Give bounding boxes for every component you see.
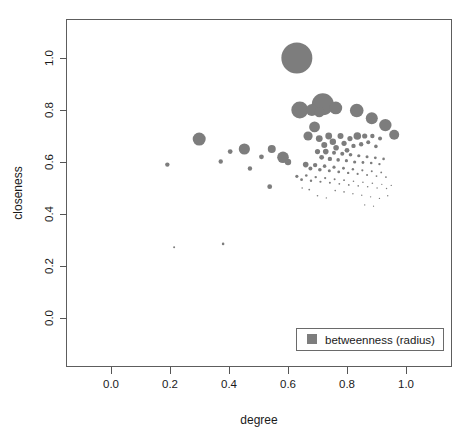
y-tick-label-1.0: 1.0 (43, 50, 55, 66)
data-point (337, 170, 340, 173)
data-point (338, 133, 344, 139)
data-point (349, 153, 353, 157)
data-point (343, 179, 345, 181)
data-point (361, 195, 362, 196)
data-point (343, 191, 345, 193)
data-point (341, 141, 346, 146)
data-point (328, 169, 331, 172)
data-point (362, 133, 367, 138)
data-point (367, 186, 369, 188)
data-point (366, 112, 378, 124)
data-point (352, 168, 354, 170)
data-point (353, 160, 356, 163)
y-axis-title: closeness (11, 166, 25, 219)
data-point (334, 190, 336, 192)
data-point (328, 157, 332, 161)
y-tick-label-0.4: 0.4 (43, 205, 55, 222)
data-point (372, 183, 374, 185)
data-point (291, 102, 308, 119)
data-point (391, 185, 392, 186)
data-point (281, 43, 312, 74)
data-point (267, 184, 272, 189)
data-point (315, 149, 320, 154)
data-point (357, 154, 360, 157)
data-point (347, 136, 352, 141)
data-point (325, 133, 332, 140)
y-tick-label-0.0: 0.0 (43, 310, 55, 326)
data-point (308, 167, 312, 171)
data-point (315, 176, 317, 178)
data-point (370, 162, 373, 165)
data-point (370, 134, 374, 138)
data-point (338, 183, 340, 185)
data-point (165, 162, 169, 166)
data-point (268, 145, 276, 153)
data-point (317, 195, 319, 197)
data-point (228, 149, 233, 154)
data-point (193, 133, 206, 146)
data-point (295, 175, 298, 178)
data-point (332, 151, 336, 155)
data-point (370, 196, 371, 197)
data-point (366, 174, 368, 176)
data-point (248, 166, 252, 170)
data-point (173, 246, 175, 248)
data-point (219, 159, 223, 163)
data-point (305, 174, 308, 177)
data-point (332, 166, 335, 169)
legend[interactable]: betweenness (radius) (297, 329, 444, 351)
data-point (357, 173, 359, 175)
x-tick-label-0.8: 0.8 (339, 378, 355, 390)
data-point (364, 204, 365, 205)
data-point (301, 187, 303, 189)
x-tick-label-1.0: 1.0 (398, 378, 414, 390)
data-point (362, 161, 365, 164)
data-point (379, 198, 380, 199)
data-point (222, 243, 225, 246)
data-point (380, 172, 382, 174)
data-point (308, 189, 310, 191)
data-point (378, 137, 382, 141)
data-point (385, 176, 387, 178)
data-point (387, 195, 388, 196)
data-point (329, 182, 331, 184)
data-point (333, 145, 339, 151)
data-point (300, 178, 303, 181)
data-point (319, 181, 321, 183)
legend-label-betweenness: betweenness (radius) (325, 334, 435, 346)
data-point (389, 130, 399, 140)
data-point (313, 163, 317, 167)
data-point (348, 184, 350, 186)
data-point (285, 159, 291, 165)
data-point (353, 180, 355, 182)
data-point (366, 155, 369, 158)
legend-swatch-betweenness (307, 334, 317, 344)
data-point (366, 140, 370, 144)
data-point (371, 170, 373, 172)
data-point (326, 197, 327, 198)
data-point (386, 188, 387, 189)
data-point (374, 156, 377, 159)
data-point (319, 155, 324, 160)
data-point (342, 167, 345, 170)
scatter-plot-figure: 0.00.20.40.60.81.0 0.00.20.40.60.81.0 de… (0, 0, 466, 444)
chart-canvas: 0.00.20.40.60.81.0 0.00.20.40.60.81.0 de… (0, 0, 466, 444)
data-point (382, 158, 385, 161)
data-point (352, 193, 353, 194)
data-point (310, 180, 312, 182)
data-point (340, 152, 344, 156)
data-point (350, 104, 364, 118)
data-point (314, 107, 324, 117)
x-tick-label-0.2: 0.2 (162, 378, 178, 390)
data-point (345, 159, 348, 162)
data-point (354, 132, 362, 140)
x-tick-label-0.0: 0.0 (103, 378, 119, 390)
y-tick-label-0.8: 0.8 (43, 102, 55, 118)
data-point (361, 169, 363, 171)
data-point (376, 175, 378, 177)
data-point (345, 148, 350, 153)
data-point (381, 184, 382, 185)
y-tick-label-0.2: 0.2 (43, 258, 55, 274)
data-point (330, 139, 336, 145)
data-point (336, 158, 340, 162)
